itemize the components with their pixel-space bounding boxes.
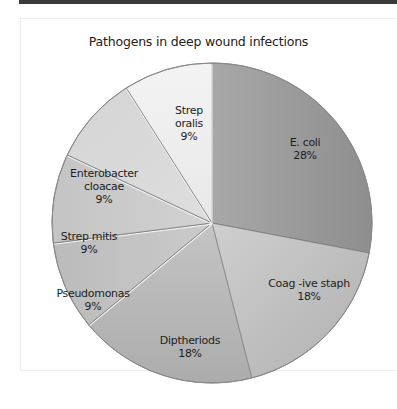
slice-label-e-coli: E. coli28% (290, 136, 321, 162)
pie-chart: E. coli28%Coag -ive staph18%Diptheriods1… (0, 0, 397, 409)
pie-slice-e-coli (212, 63, 372, 253)
